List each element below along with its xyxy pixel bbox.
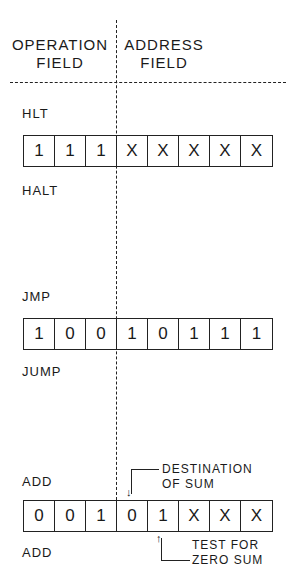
jmp-name: JUMP [22, 364, 61, 379]
bit-cell: 1 [179, 319, 210, 349]
bit-cell: X [241, 136, 272, 166]
bit-cell: 0 [24, 501, 55, 531]
test-arrow-horizontal [161, 560, 190, 561]
bit-cell: 1 [210, 319, 241, 349]
bit-cell: 1 [24, 319, 55, 349]
bit-cell: 0 [55, 319, 86, 349]
test-arrow-vertical [161, 538, 162, 561]
destination-arrowhead-icon: ↓ [126, 487, 132, 498]
test-note-line2: ZERO SUM [192, 553, 263, 568]
bit-cell: X [210, 501, 241, 531]
header-separator-dashed [10, 82, 286, 83]
bit-cell: 1 [24, 136, 55, 166]
test-for-zero-sum-note: TEST FOR ZERO SUM [192, 538, 263, 568]
bit-cell: 1 [117, 319, 148, 349]
address-header-line2: FIELD [124, 54, 204, 72]
bit-cell: 1 [148, 501, 179, 531]
operation-field-header: OPERATION FIELD [4, 36, 116, 72]
address-header-line1: ADDRESS [124, 36, 204, 54]
add-instruction-word: 0 0 1 0 1 X X X [23, 500, 273, 532]
destination-note-line2: OF SUM [162, 477, 253, 492]
destination-note-line1: DESTINATION [162, 462, 253, 477]
bit-cell: X [179, 136, 210, 166]
bit-cell: X [117, 136, 148, 166]
jmp-instruction-word: 1 0 0 1 0 1 1 1 [23, 318, 273, 350]
bit-cell: 1 [55, 136, 86, 166]
bit-cell: 0 [148, 319, 179, 349]
add-name: ADD [22, 545, 52, 560]
bit-cell: X [148, 136, 179, 166]
bit-cell: X [241, 501, 272, 531]
destination-arrow-horizontal [131, 469, 159, 470]
bit-cell: 1 [86, 501, 117, 531]
jmp-mnemonic: JMP [22, 289, 51, 304]
hlt-name: HALT [22, 183, 58, 198]
hlt-instruction-word: 1 1 1 X X X X X [23, 135, 273, 167]
bit-cell: 0 [117, 501, 148, 531]
bit-cell: X [210, 136, 241, 166]
destination-of-sum-note: DESTINATION OF SUM [162, 462, 253, 492]
add-mnemonic: ADD [22, 474, 52, 489]
bit-cell: 0 [86, 319, 117, 349]
bit-cell: 1 [241, 319, 272, 349]
address-field-header: ADDRESS FIELD [124, 36, 204, 72]
bit-cell: X [179, 501, 210, 531]
field-divider-dashed [116, 20, 117, 500]
test-note-line1: TEST FOR [192, 538, 263, 553]
bit-cell: 0 [55, 501, 86, 531]
operation-header-line2: FIELD [4, 54, 116, 72]
hlt-mnemonic: HLT [22, 106, 49, 121]
bit-cell: 1 [86, 136, 117, 166]
operation-header-line1: OPERATION [4, 36, 116, 54]
